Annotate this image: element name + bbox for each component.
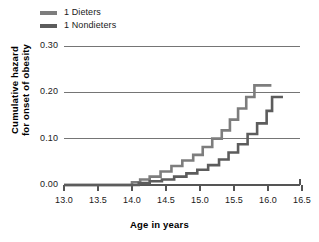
y-axis-title-line1: Cumulative hazard [9,10,20,170]
legend-label-nondieters: 1 Nondieters [64,20,116,31]
x-tick-label: 14.5 [151,196,181,205]
series-line-dieters [64,85,271,185]
y-tick-label: 0.10 [28,134,58,143]
series-layer [64,85,283,185]
legend-swatch-dieters [40,11,57,15]
x-tick-label: 15.0 [185,196,215,205]
legend-item-nondieters: 1 Nondieters [40,20,116,31]
y-tick-label: 0.20 [28,87,58,96]
x-tick-label: 15.5 [219,196,249,205]
y-axis-title: Cumulative hazard for onset of obesity [9,10,31,170]
x-axis-title: Age in years [0,219,319,230]
series-line-nondieters [64,97,283,185]
plot-area [0,0,319,242]
cumulative-hazard-chart: 1 Dieters 1 Nondieters 0.000.100.200.30 … [0,0,319,242]
legend-swatch-nondieters [40,24,57,28]
x-tick-label: 16.0 [253,196,283,205]
legend-item-dieters: 1 Dieters [40,7,116,18]
y-tick-label: 0.30 [28,41,58,50]
x-tick-label: 13.5 [83,196,113,205]
x-tick-label: 14.0 [117,196,147,205]
x-tick-label: 16.5 [287,196,317,205]
x-tick-label: 13.0 [49,196,79,205]
chart-legend: 1 Dieters 1 Nondieters [40,7,116,33]
legend-label-dieters: 1 Dieters [64,7,101,18]
y-axis-title-line2: for onset of obesity [20,10,31,170]
y-tick-label: 0.00 [28,180,58,189]
